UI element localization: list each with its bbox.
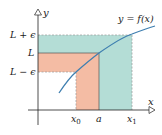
curve-label: y = f(x) [117,13,154,24]
x-axis-label: x [148,96,154,107]
teal-region-vertical [99,35,132,110]
tick-x0: x0 [71,113,81,126]
epsilon-delta-diagram: y x y = f(x) L + ϵ L L − ϵ x0 a x1 [0,0,162,135]
tick-x1: x1 [127,113,137,126]
y-axis-arrow-icon [35,9,42,15]
tick-l-plus-eps: L + ϵ [9,29,36,40]
y-axis-label: y [42,7,49,18]
tick-l-minus-eps: L − ϵ [9,66,36,77]
x-axis-arrow-icon [149,107,155,114]
tick-l: L [27,47,34,58]
tick-a: a [96,113,102,124]
